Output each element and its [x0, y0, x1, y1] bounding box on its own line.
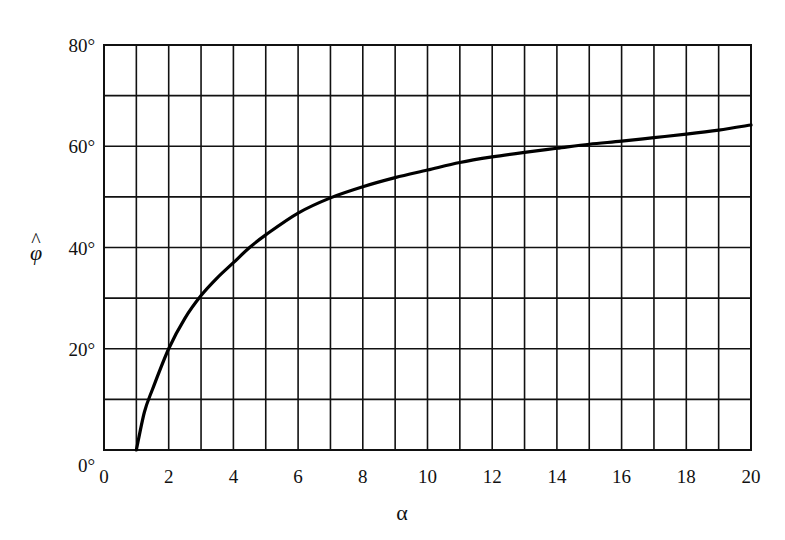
x-tick-label: 2 [164, 466, 174, 487]
x-axis-ticks: 02468101214161820 [99, 466, 760, 487]
x-tick-label: 8 [358, 466, 368, 487]
x-tick-label: 20 [742, 466, 761, 487]
x-tick-label: 12 [483, 466, 502, 487]
y-tick-label: 60° [68, 136, 95, 157]
y-tick-label: 80° [68, 35, 95, 56]
y-tick-label: 20° [68, 339, 95, 360]
curve-line [136, 125, 751, 450]
grid [104, 45, 751, 450]
x-tick-label: 10 [418, 466, 437, 487]
data-series [136, 125, 751, 450]
x-tick-label: 4 [229, 466, 239, 487]
x-tick-label: 6 [293, 466, 303, 487]
y-axis-label: ^ φ [30, 229, 42, 265]
x-axis-label: α [396, 500, 408, 525]
chart: 02468101214161820 0°20°40°60°80° α ^ φ [0, 0, 785, 540]
y-axis-label-symbol: φ [30, 240, 42, 265]
y-tick-label: 40° [68, 238, 95, 259]
x-tick-label: 14 [547, 466, 567, 487]
x-tick-label: 16 [612, 466, 631, 487]
y-axis-ticks: 0°20°40°60°80° [68, 35, 95, 476]
y-tick-label: 0° [78, 455, 95, 476]
x-tick-label: 18 [677, 466, 696, 487]
x-tick-label: 0 [99, 466, 109, 487]
